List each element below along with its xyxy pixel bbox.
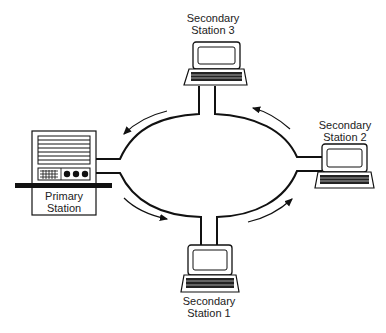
station-1-label-line1: Secondary <box>174 295 244 307</box>
station-3-label: Secondary Station 3 <box>178 12 248 36</box>
arrow-top-left <box>124 111 167 134</box>
station-3-label-line2: Station 3 <box>178 24 248 36</box>
arrow-top-right <box>253 108 290 129</box>
station-3-label-line1: Secondary <box>178 12 248 24</box>
station-1-label-line2: Station 1 <box>174 307 244 319</box>
base-bar <box>15 183 112 188</box>
arrow-bottom-left <box>124 198 167 219</box>
primary-label-line2: Station <box>32 202 96 214</box>
station-1-terminal-icon <box>181 245 239 292</box>
station-2-label-line1: Secondary <box>310 119 380 131</box>
station-2-terminal-icon <box>315 144 374 188</box>
ring-diagram <box>0 0 386 333</box>
primary-station-label: Primary Station <box>32 190 96 214</box>
station-2-label-line2: Station 2 <box>310 131 380 143</box>
ring <box>96 86 322 245</box>
station-3-terminal-icon <box>184 42 247 85</box>
station-2-label: Secondary Station 2 <box>310 119 380 143</box>
station-1-label: Secondary Station 1 <box>174 295 244 319</box>
primary-label-line1: Primary <box>32 190 96 202</box>
